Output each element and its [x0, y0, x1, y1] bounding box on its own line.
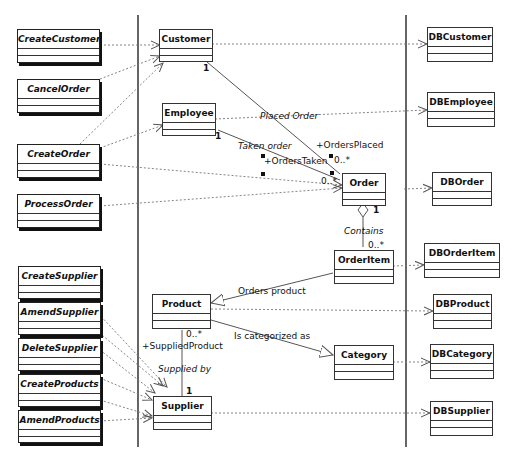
attributes-compartment [428, 47, 492, 54]
class-category[interactable]: Category [334, 345, 394, 380]
class-amend-products[interactable]: AmendProducts [18, 410, 101, 443]
class-name: DBCategory [431, 345, 493, 364]
operations-compartment [19, 401, 100, 407]
mult-customer-placed: 1 [203, 63, 209, 73]
class-name: AmendProducts [19, 411, 100, 430]
attributes-compartment [18, 99, 99, 106]
operations-compartment [163, 130, 215, 136]
attributes-compartment [431, 364, 493, 371]
class-product[interactable]: Product [152, 294, 211, 329]
operations-compartment [18, 106, 99, 112]
attributes-compartment [19, 322, 100, 329]
class-supplier[interactable]: Supplier [153, 396, 212, 430]
operations-compartment [18, 56, 99, 62]
class-name: Product [153, 295, 210, 314]
attributes-compartment [18, 164, 99, 171]
operations-compartment [425, 270, 499, 276]
attributes-compartment [434, 314, 491, 321]
mult-order-taken: 0..* [321, 176, 337, 186]
class-name: Customer [160, 30, 212, 49]
association-marker [329, 154, 333, 158]
association-marker [330, 171, 334, 175]
class-create-products[interactable]: CreateProducts [18, 374, 101, 407]
association-marker [261, 172, 265, 176]
assoc-placed-order-label: Placed Order [260, 111, 318, 121]
class-process-order[interactable]: ProcessOrder [17, 194, 100, 228]
operations-compartment [335, 372, 393, 378]
class-name: CreateOrder [18, 145, 99, 164]
class-amend-supplier[interactable]: AmendSupplier [18, 302, 101, 335]
class-name: CreateCustomer [18, 30, 99, 49]
assoc-taken-order-label: Taken order [238, 141, 292, 151]
class-db-customer[interactable]: DBCustomer [427, 27, 493, 62]
class-create-customer[interactable]: CreateCustomer [17, 29, 100, 63]
class-name: DBOrder [433, 173, 491, 192]
class-db-order-item[interactable]: DBOrderItem [424, 243, 500, 278]
mult-item-contains: 0..* [368, 240, 384, 250]
assoc-supplied-by-label: Supplied by [158, 364, 211, 374]
assoc-contains-label: Contains [344, 226, 383, 236]
attributes-compartment [433, 192, 491, 199]
operations-compartment [18, 221, 99, 227]
class-name: AmendSupplier [19, 303, 100, 322]
class-db-order[interactable]: DBOrder [432, 172, 492, 206]
attributes-compartment [154, 416, 211, 423]
operations-compartment [433, 199, 491, 205]
class-customer[interactable]: Customer [159, 29, 213, 62]
class-delete-supplier[interactable]: DeleteSupplier [18, 338, 101, 371]
class-name: Order [343, 174, 385, 193]
operations-compartment [154, 423, 211, 429]
class-name: DBOrderItem [425, 244, 499, 263]
mult-supplier-supplied: 1 [186, 386, 192, 396]
operations-compartment [19, 293, 100, 299]
attributes-compartment [343, 193, 385, 200]
role-orders-taken: +OrdersTaken [264, 156, 327, 166]
operations-compartment [19, 437, 100, 443]
class-db-category[interactable]: DBCategory [430, 344, 494, 379]
class-cancel-order[interactable]: CancelOrder [17, 79, 100, 113]
class-employee[interactable]: Employee [162, 103, 216, 136]
attributes-compartment [19, 286, 100, 293]
assoc-orders-product-label: Orders product [238, 286, 306, 296]
mult-order-contains: 1 [373, 205, 379, 215]
operations-compartment [428, 119, 494, 125]
operations-compartment [19, 329, 100, 335]
attributes-compartment [431, 421, 492, 428]
attributes-compartment [428, 112, 494, 119]
role-supplied-product: +SuppliedProduct [142, 341, 223, 351]
class-order[interactable]: Order [342, 173, 386, 206]
class-name: DeleteSupplier [19, 339, 100, 358]
class-name: DBEmployee [428, 93, 494, 112]
attributes-compartment [163, 123, 215, 130]
mult-order-placed: 0..* [334, 155, 350, 165]
operations-compartment [431, 428, 492, 434]
attributes-compartment [335, 365, 393, 372]
class-name: CreateProducts [19, 375, 100, 394]
attributes-compartment [160, 49, 212, 56]
class-name: OrderItem [335, 251, 393, 270]
class-order-item[interactable]: OrderItem [334, 250, 394, 284]
class-name: DBCustomer [428, 28, 492, 47]
operations-compartment [431, 371, 493, 377]
operations-compartment [160, 56, 212, 62]
class-create-supplier[interactable]: CreateSupplier [18, 266, 101, 299]
class-db-supplier[interactable]: DBSupplier [430, 401, 493, 436]
class-name: CreateSupplier [19, 267, 100, 286]
attributes-compartment [18, 49, 99, 56]
mult-employee-taken: 1 [215, 131, 221, 141]
association-marker [261, 154, 265, 158]
assoc-is-categorized-as-label: Is categorized as [234, 331, 310, 341]
class-db-employee[interactable]: DBEmployee [427, 92, 495, 127]
attributes-compartment [335, 270, 393, 277]
operations-compartment [434, 321, 491, 327]
attributes-compartment [19, 430, 100, 437]
attributes-compartment [425, 263, 499, 270]
class-create-order[interactable]: CreateOrder [17, 144, 100, 178]
attributes-compartment [153, 314, 210, 321]
operations-compartment [19, 365, 100, 371]
class-name: Category [335, 346, 393, 365]
operations-compartment [428, 54, 492, 60]
attributes-compartment [19, 394, 100, 401]
mult-product-supplied: 0..* [186, 329, 202, 339]
class-db-product[interactable]: DBProduct [433, 294, 492, 329]
